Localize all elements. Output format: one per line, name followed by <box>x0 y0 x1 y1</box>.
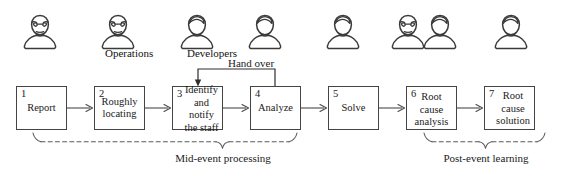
phase-label-post-event: Post-event learning <box>427 152 545 164</box>
process-step-2-label: Roughly locating <box>95 87 144 129</box>
flow-arrow-5-6 <box>379 105 405 112</box>
handover-label: Hand over <box>228 57 274 69</box>
process-step-1-label: Report <box>17 87 66 129</box>
process-step-2[interactable]: 2 Roughly locating <box>94 86 145 130</box>
phase-label-mid-event: Mid-event processing <box>160 152 286 164</box>
process-step-3[interactable]: 3 Identify and notify the staff <box>172 86 223 130</box>
process-step-5-label: Solve <box>329 87 378 129</box>
process-step-4-label: Analyze <box>251 87 300 129</box>
process-step-6-label: Root cause analysis <box>407 87 456 129</box>
process-step-6[interactable]: 6 Root cause analysis <box>406 86 457 130</box>
phase-bracket-post-event <box>424 133 545 148</box>
process-step-7[interactable]: 7 Root cause solution <box>484 86 535 130</box>
flow-arrow-2-3 <box>145 105 171 112</box>
phase-bracket-mid-event <box>33 133 297 148</box>
process-step-1[interactable]: 1 Report <box>16 86 67 130</box>
flow-arrow-4-5 <box>301 105 327 112</box>
flow-arrow-1-2 <box>67 105 93 112</box>
flow-arrow-6-7 <box>457 105 483 112</box>
process-step-3-label: Identify and notify the staff <box>173 87 222 129</box>
process-step-5[interactable]: 5 Solve <box>328 86 379 130</box>
process-step-4[interactable]: 4 Analyze <box>250 86 301 130</box>
flow-arrow-3-4 <box>223 105 249 112</box>
process-step-7-label: Root cause solution <box>485 87 534 129</box>
process-flow-diagram: Operations Developers <box>0 0 577 176</box>
